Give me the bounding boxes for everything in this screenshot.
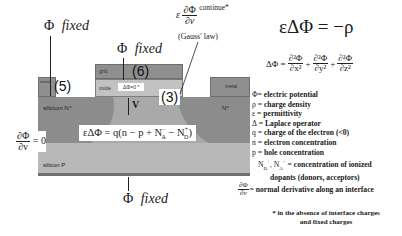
headline-rhs: −ρ — [333, 16, 353, 37]
legend-item: ρ = charge density — [252, 100, 374, 110]
continue-text: continue* — [199, 3, 229, 12]
poisson-equation: εΔΦ = q(n − p + N−A − N+D) — [79, 125, 196, 141]
normal-arrow — [128, 98, 129, 115]
arrow-bottom — [128, 177, 129, 191]
grid-label: grid — [99, 68, 107, 74]
symbol-legend: Φ= electric potential ρ = charge density… — [252, 90, 374, 197]
poisson-headline: εΔΦ = −ρ — [279, 16, 354, 38]
phi-symbol: Φ — [44, 18, 54, 33]
headline-equals: = — [318, 16, 329, 37]
metal-left-label: metal — [40, 79, 50, 84]
laplacian-lhs: ΔΦ = — [266, 59, 286, 69]
arrow-top-left — [50, 36, 51, 96]
footnote-line-2: and fixed charges — [262, 218, 390, 227]
legend-sym: Δ — [252, 119, 257, 128]
plus: + — [330, 59, 335, 69]
epsilon: ε — [176, 9, 180, 20]
silicon-p-label: silicon P — [43, 162, 65, 168]
n-plus-right-label: N⁺ — [222, 104, 229, 111]
term-den: ∂y² — [314, 64, 328, 73]
metal-right-label: metal — [225, 83, 237, 89]
metal-contact-right: metal — [210, 77, 250, 97]
fixed-text: fixed — [141, 191, 168, 206]
poisson-mid: − N — [166, 127, 185, 138]
term-den: ∂z² — [339, 64, 352, 73]
legend-sym: ρ — [252, 100, 256, 109]
fixed-text: fixed — [62, 18, 89, 33]
p-substrate — [38, 143, 250, 175]
phi-symbol: Φ — [123, 191, 133, 206]
headline-lhs: εΔΦ — [279, 16, 313, 37]
legend-item: Φ= electric potential — [252, 90, 374, 100]
oxide-label: oxide — [99, 85, 111, 91]
term-den: ∂x² — [289, 64, 303, 73]
arrow-gate — [123, 58, 124, 80]
back-contact — [38, 173, 250, 176]
legend-text: = hole concentration — [258, 148, 324, 157]
footnote-line-1: * in the absence of interface charges — [262, 209, 390, 218]
legend-text: dopants (donors, acceptors) — [270, 173, 360, 182]
legend-item: Δ = Laplace operator — [252, 119, 374, 129]
legend-sym: ε — [252, 109, 255, 118]
boundary-label-top-left: Φ fixed — [44, 18, 89, 34]
legend-item: p = hole concentration — [252, 148, 374, 158]
legend-text: = Laplace operator — [259, 119, 321, 128]
legend-text: = normal derivative along an interface — [250, 185, 374, 195]
neumann-den: ∂v — [17, 142, 29, 152]
boundary-label-bottom: Φ fixed — [123, 191, 168, 207]
legend-item: q = charge of the electron (<0) — [252, 128, 374, 138]
region-3-label: (3) — [159, 89, 180, 105]
gauss-condition: ε ∂Φ∂v continue* — [176, 3, 229, 26]
legend-text: = charge of the electron (<0) — [258, 128, 349, 137]
gauss-den: ∂v — [184, 16, 195, 26]
gate-grid: grid (6) — [95, 64, 183, 79]
poisson-end: ) — [188, 127, 192, 138]
legend-item: dopants (donors, acceptors) — [252, 173, 374, 183]
legend-text: = electric potential — [258, 90, 318, 99]
term-y: ∂²Φ∂y² — [313, 54, 329, 73]
legend-item: ∂Φ∂v = normal derivative along an interf… — [238, 182, 374, 197]
legend-text: = charge density — [258, 100, 311, 109]
phi-symbol: Φ — [117, 41, 127, 56]
oxide-laplace-eq: ΔΦ=0 * — [118, 83, 144, 91]
neumann-rhs: = 0 — [33, 135, 46, 146]
legend-item: ND+, NA− = concentration of ionized — [252, 157, 374, 173]
legend-item: n = electron concentration — [252, 138, 374, 148]
legend-text: = concentration of ionized — [288, 160, 372, 169]
silicon-n-left-label: silicium N⁺ — [43, 104, 72, 111]
gauss-pointer — [178, 40, 202, 98]
plus: + — [305, 59, 310, 69]
legend-sym: p — [252, 148, 256, 157]
boundary-label-gate: Φ fixed — [117, 41, 162, 57]
poisson-main: εΔΦ = q(n − p + N — [83, 127, 162, 138]
term-x: ∂²Φ∂x² — [288, 54, 304, 73]
neumann-condition: ∂Φ∂v = 0 — [16, 131, 46, 152]
legend-sym: q — [252, 128, 256, 137]
region-5-label: (5) — [54, 78, 71, 94]
term-z: ∂²Φ∂z² — [337, 54, 353, 73]
legend-item: ε = permittivity — [252, 109, 374, 119]
region-6-label: (6) — [132, 63, 149, 79]
fixed-text: fixed — [135, 41, 162, 56]
legend-text: = electron concentration — [256, 138, 337, 147]
laplacian-definition: ΔΦ = ∂²Φ∂x² + ∂²Φ∂y² + ∂²Φ∂z² — [266, 54, 353, 73]
v-label: V — [132, 99, 139, 110]
legend-text: = permittivity — [257, 109, 302, 118]
footnote: * in the absence of interface charges an… — [262, 209, 390, 227]
